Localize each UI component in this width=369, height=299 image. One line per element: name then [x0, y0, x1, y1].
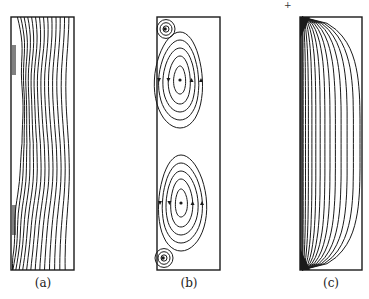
flow-arrow	[191, 201, 195, 205]
panel-b-label: (b)	[169, 276, 209, 290]
eddy-center	[161, 256, 165, 260]
panel-c-label: (c)	[311, 276, 351, 290]
cell-center	[178, 78, 181, 81]
isotherm-line	[65, 17, 69, 270]
cell-center	[179, 201, 182, 204]
isotherm-line	[55, 17, 62, 270]
wall-shading	[12, 45, 16, 75]
panel-a	[11, 17, 74, 270]
contour-line	[302, 17, 353, 270]
flow-arrow	[166, 78, 170, 82]
flow-arrow	[200, 201, 204, 205]
eddy-center	[163, 27, 167, 31]
wall-shading	[12, 205, 16, 235]
panel-c	[300, 17, 362, 270]
panel-b	[154, 17, 220, 270]
isotherm-line	[27, 17, 38, 270]
figure-canvas	[0, 0, 369, 299]
panel-a-label: (a)	[23, 276, 63, 290]
wall-shading	[300, 17, 303, 270]
